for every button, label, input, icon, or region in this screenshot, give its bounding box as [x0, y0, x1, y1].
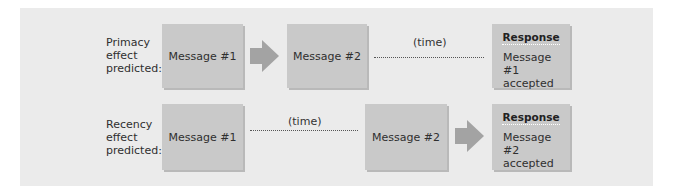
- message-label: Message #1: [162, 131, 243, 144]
- recency-response-box: Response Message #2 accepted: [492, 104, 570, 170]
- response-line: accepted: [503, 77, 570, 90]
- time-dotted-line: [250, 130, 358, 131]
- response-line: accepted: [503, 157, 570, 170]
- response-body: Message #1 accepted: [503, 51, 570, 90]
- response-line: Message #1: [503, 51, 570, 77]
- recency-message-1-box: Message #1: [162, 104, 243, 170]
- message-label: Message #1: [162, 50, 243, 63]
- primacy-response-box: Response Message #1 accepted: [492, 24, 570, 88]
- time-dotted-line: [374, 57, 484, 58]
- recency-message-2-box: Message #2: [365, 104, 447, 170]
- time-label: (time): [413, 36, 446, 49]
- response-body: Message #2 accepted: [503, 131, 570, 170]
- label-line: predicted:: [106, 62, 162, 75]
- label-line: effect: [106, 49, 162, 62]
- response-title: Response: [492, 111, 570, 123]
- label-line: Primacy: [106, 36, 162, 49]
- response-title: Response: [492, 31, 570, 43]
- arrow-right-icon: [250, 40, 280, 72]
- response-title-text: Response: [502, 31, 559, 45]
- label-line: predicted:: [106, 144, 162, 157]
- time-label: (time): [288, 115, 321, 128]
- response-line: Message #2: [503, 131, 570, 157]
- arrow-right-icon: [455, 120, 485, 152]
- label-line: effect: [106, 131, 162, 144]
- label-line: Recency: [106, 118, 162, 131]
- primacy-message-1-box: Message #1: [162, 24, 243, 88]
- recency-row-label: Recency effect predicted:: [106, 118, 162, 157]
- message-label: Message #2: [287, 50, 367, 63]
- primacy-message-2-box: Message #2: [287, 24, 367, 88]
- primacy-row-label: Primacy effect predicted:: [106, 36, 162, 75]
- message-label: Message #2: [365, 131, 447, 144]
- response-title-text: Response: [502, 111, 559, 125]
